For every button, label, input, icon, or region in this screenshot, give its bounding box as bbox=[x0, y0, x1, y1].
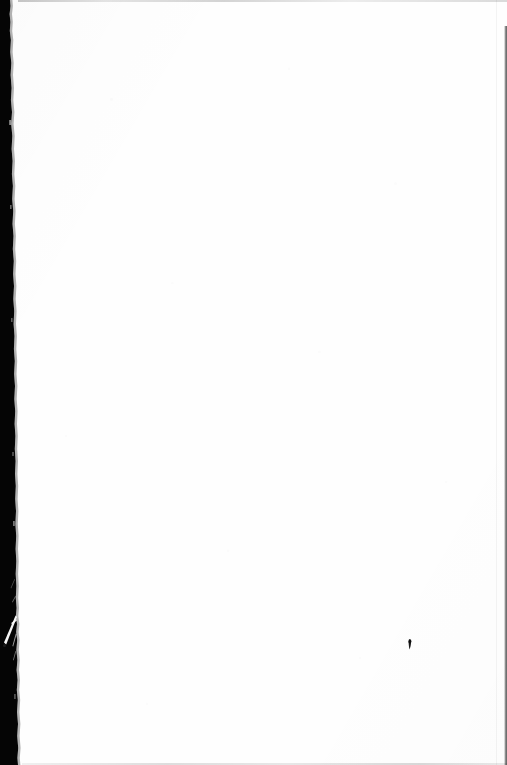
left-scan-gutter bbox=[0, 0, 22, 765]
page-body bbox=[22, 4, 503, 761]
top-scan-edge bbox=[18, 0, 507, 2]
ink-speck bbox=[408, 639, 412, 650]
scanned-page bbox=[0, 0, 507, 765]
gutter-dot bbox=[3, 644, 6, 647]
